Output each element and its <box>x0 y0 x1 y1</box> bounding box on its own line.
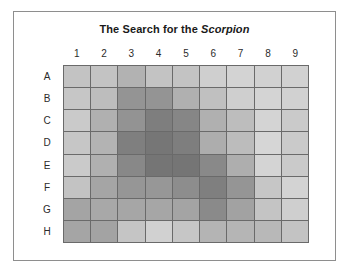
heatmap-cell-G1[interactable] <box>64 199 91 221</box>
heatmap-cell-H9[interactable] <box>282 221 309 243</box>
heatmap-cell-E7[interactable] <box>227 155 254 177</box>
heatmap-cell-D7[interactable] <box>227 132 254 154</box>
column-header-5: 5 <box>172 45 199 63</box>
heatmap-cell-C3[interactable] <box>118 110 145 132</box>
heatmap-cell-G9[interactable] <box>282 199 309 221</box>
heatmap-cell-C9[interactable] <box>282 110 309 132</box>
heatmap-cell-C7[interactable] <box>227 110 254 132</box>
row-header-B: B <box>37 87 57 109</box>
heatmap-cell-B1[interactable] <box>64 88 91 110</box>
heatmap-plot-area: 123456789 ABCDEFGH <box>63 65 309 243</box>
heatmap-cell-E8[interactable] <box>255 155 282 177</box>
heatmap-cell-B4[interactable] <box>146 88 173 110</box>
heatmap-cell-A4[interactable] <box>146 66 173 88</box>
heatmap-cell-E6[interactable] <box>200 155 227 177</box>
heatmap-row-D <box>64 132 309 154</box>
heatmap-cell-D9[interactable] <box>282 132 309 154</box>
heatmap-cell-F8[interactable] <box>255 177 282 199</box>
heatmap-row-B <box>64 88 309 110</box>
heatmap-cell-H3[interactable] <box>118 221 145 243</box>
heatmap-cell-F9[interactable] <box>282 177 309 199</box>
heatmap-cell-B7[interactable] <box>227 88 254 110</box>
heatmap-cell-C4[interactable] <box>146 110 173 132</box>
heatmap-cell-D5[interactable] <box>173 132 200 154</box>
heatmap-cell-A2[interactable] <box>91 66 118 88</box>
heatmap-cell-H1[interactable] <box>64 221 91 243</box>
heatmap-cell-G6[interactable] <box>200 199 227 221</box>
heatmap-cell-C6[interactable] <box>200 110 227 132</box>
heatmap-cell-E5[interactable] <box>173 155 200 177</box>
heatmap-cell-A9[interactable] <box>282 66 309 88</box>
row-header-C: C <box>37 110 57 132</box>
heatmap-cell-F6[interactable] <box>200 177 227 199</box>
heatmap-grid <box>63 65 309 243</box>
heatmap-cell-H8[interactable] <box>255 221 282 243</box>
heatmap-cell-C8[interactable] <box>255 110 282 132</box>
heatmap-cell-F2[interactable] <box>91 177 118 199</box>
heatmap-cell-B2[interactable] <box>91 88 118 110</box>
heatmap-cell-B8[interactable] <box>255 88 282 110</box>
heatmap-row-F <box>64 177 309 199</box>
heatmap-cell-D2[interactable] <box>91 132 118 154</box>
heatmap-cell-G7[interactable] <box>227 199 254 221</box>
heatmap-cell-E1[interactable] <box>64 155 91 177</box>
column-header-8: 8 <box>254 45 281 63</box>
column-header-row: 123456789 <box>63 45 309 63</box>
heatmap-row-E <box>64 155 309 177</box>
heatmap-cell-B6[interactable] <box>200 88 227 110</box>
heatmap-cell-D3[interactable] <box>118 132 145 154</box>
heatmap-cell-A8[interactable] <box>255 66 282 88</box>
heatmap-cell-B3[interactable] <box>118 88 145 110</box>
heatmap-cell-C5[interactable] <box>173 110 200 132</box>
column-header-3: 3 <box>118 45 145 63</box>
heatmap-cell-G4[interactable] <box>146 199 173 221</box>
heatmap-cell-H7[interactable] <box>227 221 254 243</box>
heatmap-cell-A7[interactable] <box>227 66 254 88</box>
row-header-A: A <box>37 65 57 87</box>
heatmap-row-H <box>64 221 309 243</box>
heatmap-cell-G3[interactable] <box>118 199 145 221</box>
figure-frame: The Search for the Scorpion 123456789 AB… <box>13 11 336 261</box>
column-header-1: 1 <box>63 45 90 63</box>
heatmap-cell-F1[interactable] <box>64 177 91 199</box>
heatmap-cell-A1[interactable] <box>64 66 91 88</box>
chart-title-italic: Scorpion <box>201 23 249 35</box>
heatmap-cell-F4[interactable] <box>146 177 173 199</box>
heatmap-cell-G2[interactable] <box>91 199 118 221</box>
heatmap-cell-E9[interactable] <box>282 155 309 177</box>
heatmap-cell-H5[interactable] <box>173 221 200 243</box>
column-header-6: 6 <box>200 45 227 63</box>
heatmap-cell-F3[interactable] <box>118 177 145 199</box>
heatmap-cell-H4[interactable] <box>146 221 173 243</box>
column-header-4: 4 <box>145 45 172 63</box>
row-header-G: G <box>37 199 57 221</box>
heatmap-cell-D1[interactable] <box>64 132 91 154</box>
heatmap-cell-E2[interactable] <box>91 155 118 177</box>
column-header-7: 7 <box>227 45 254 63</box>
heatmap-cell-G5[interactable] <box>173 199 200 221</box>
heatmap-cell-B5[interactable] <box>173 88 200 110</box>
heatmap-cell-A5[interactable] <box>173 66 200 88</box>
heatmap-cell-D4[interactable] <box>146 132 173 154</box>
heatmap-cell-A3[interactable] <box>118 66 145 88</box>
heatmap-cell-H2[interactable] <box>91 221 118 243</box>
heatmap-cell-D8[interactable] <box>255 132 282 154</box>
heatmap-cell-A6[interactable] <box>200 66 227 88</box>
heatmap-cell-E3[interactable] <box>118 155 145 177</box>
chart-title-plain: The Search for the <box>99 23 201 35</box>
heatmap-cell-B9[interactable] <box>282 88 309 110</box>
heatmap-cell-C1[interactable] <box>64 110 91 132</box>
column-header-2: 2 <box>90 45 117 63</box>
heatmap-row-C <box>64 110 309 132</box>
row-header-D: D <box>37 132 57 154</box>
heatmap-cell-F7[interactable] <box>227 177 254 199</box>
row-header-F: F <box>37 176 57 198</box>
heatmap-cell-H6[interactable] <box>200 221 227 243</box>
heatmap-cell-G8[interactable] <box>255 199 282 221</box>
heatmap-row-G <box>64 199 309 221</box>
heatmap-cell-F5[interactable] <box>173 177 200 199</box>
heatmap-cell-C2[interactable] <box>91 110 118 132</box>
heatmap-cell-D6[interactable] <box>200 132 227 154</box>
heatmap-cell-E4[interactable] <box>146 155 173 177</box>
heatmap-row-A <box>64 66 309 88</box>
